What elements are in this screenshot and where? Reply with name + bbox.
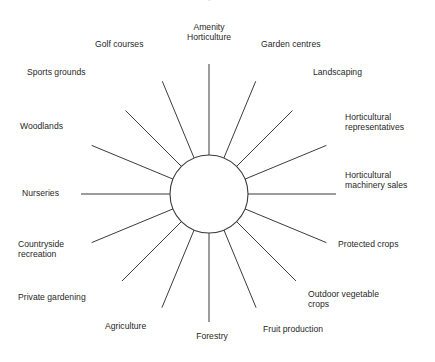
spoke-sports-grounds	[126, 111, 182, 167]
spoke-landscaping	[237, 111, 293, 167]
spoke-horticultural-representatives	[245, 145, 326, 179]
radial-diagram: Amenity horticulture Amenity Horticultur…	[0, 0, 435, 362]
spoke-agriculture	[162, 230, 194, 308]
node-label-agriculture: Agriculture	[105, 321, 146, 331]
node-label-amenity-horticulture: Amenity Horticulture	[185, 22, 233, 43]
spoke-fruit-production	[224, 230, 256, 308]
node-label-protected-crops: Protected crops	[338, 239, 399, 249]
node-label-outdoor-vegetable-crops: Outdoor vegetable crops	[308, 289, 379, 310]
node-label-forestry: Forestry	[188, 331, 236, 341]
node-label-garden-centres: Garden centres	[261, 39, 321, 49]
node-label-private-gardening: Private gardening	[18, 292, 86, 302]
node-label-horticultural-representatives: Horticultural representatives	[345, 112, 404, 133]
spoke-countryside-recreation	[92, 209, 173, 243]
node-label-sports-grounds: Sports grounds	[27, 67, 86, 77]
spoke-private-gardening	[122, 222, 181, 281]
node-label-countryside-recreation: Countryside recreation	[18, 239, 64, 260]
hub-circle	[170, 155, 248, 233]
spoke-garden-centres	[224, 81, 256, 158]
spoke-protected-crops	[245, 209, 326, 243]
node-label-landscaping: Landscaping	[313, 67, 362, 77]
spoke-woodlands	[92, 145, 173, 179]
node-label-golf-courses: Golf courses	[95, 39, 143, 49]
node-label-nurseries: Nurseries	[22, 188, 59, 198]
node-label-horticultural-machinery-sales: Horticultural machinery sales	[345, 170, 407, 191]
spoke-outdoor-vegetable-crops	[237, 222, 296, 281]
node-label-woodlands: Woodlands	[20, 121, 63, 131]
spoke-golf-courses	[162, 81, 194, 158]
node-label-fruit-production: Fruit production	[263, 324, 323, 334]
